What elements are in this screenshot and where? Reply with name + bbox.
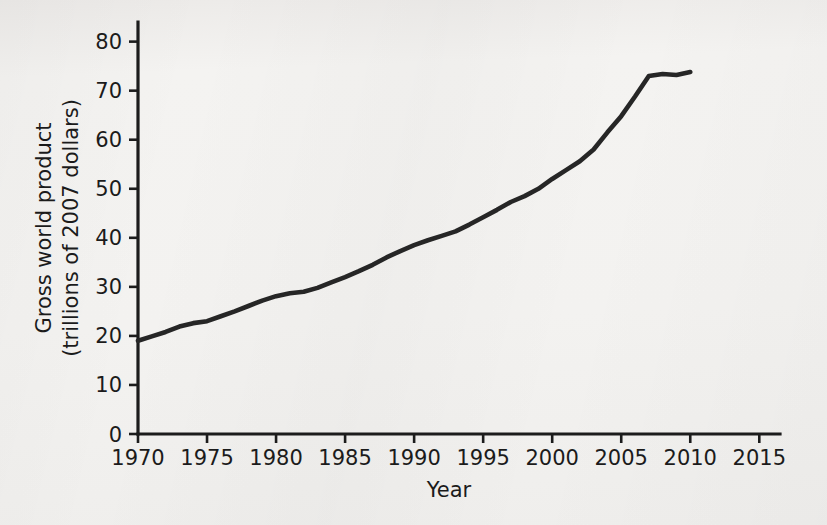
x-axis-title: Year: [426, 478, 472, 502]
x-tick-label-2005: 2005: [594, 446, 647, 470]
gross-world-product-line-chart: 01020304050607080 1970197519801985199019…: [0, 0, 827, 525]
y-tick-label-40: 40: [95, 226, 122, 250]
x-tick-label-1980: 1980: [249, 446, 302, 470]
x-tick-label-1985: 1985: [318, 446, 371, 470]
y-tick-label-80: 80: [95, 30, 122, 54]
data-series-group: [138, 72, 690, 341]
chart-svg: 01020304050607080 1970197519801985199019…: [0, 0, 827, 525]
x-tick-label-1990: 1990: [387, 446, 440, 470]
y-tick-label-0: 0: [109, 423, 122, 447]
y-axis-title-line-1: Gross world product: [32, 122, 56, 333]
x-tick-label-1975: 1975: [180, 446, 233, 470]
y-axis: 01020304050607080: [95, 22, 138, 447]
x-tick-label-2015: 2015: [733, 446, 786, 470]
y-tick-label-30: 30: [95, 275, 122, 299]
y-axis-title: Gross world product(trillions of 2007 do…: [32, 99, 83, 357]
y-tick-label-70: 70: [95, 79, 122, 103]
x-tick-label-1995: 1995: [456, 446, 509, 470]
y-axis-title-line-2: (trillions of 2007 dollars): [59, 99, 83, 357]
x-axis: 1970197519801985199019952000200520102015: [111, 434, 786, 470]
y-tick-label-10: 10: [95, 373, 122, 397]
x-tick-label-2000: 2000: [525, 446, 578, 470]
series-line-0: [138, 72, 690, 341]
y-tick-label-50: 50: [95, 177, 122, 201]
x-tick-label-2010: 2010: [664, 446, 717, 470]
y-tick-label-60: 60: [95, 128, 122, 152]
x-tick-label-1970: 1970: [111, 446, 164, 470]
y-tick-label-20: 20: [95, 324, 122, 348]
